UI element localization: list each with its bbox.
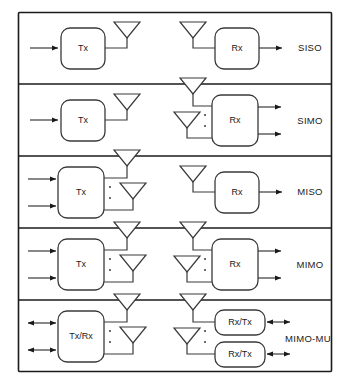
vertical-ellipsis-icon xyxy=(204,114,206,116)
rx-block-label: Rx xyxy=(230,259,241,269)
antenna-icon xyxy=(120,327,146,343)
vertical-ellipsis-icon xyxy=(204,125,206,127)
antenna-icon xyxy=(114,294,140,310)
txrx-block-label: Tx/Rx xyxy=(69,331,93,341)
tx-antenna-feed xyxy=(104,271,133,282)
rxtx-block-label: Rx/Tx xyxy=(228,317,252,327)
vertical-ellipsis-icon xyxy=(109,330,111,332)
tx-block-label: Tx xyxy=(78,43,88,53)
rx-antenna-feed xyxy=(193,37,215,48)
tx-block-label: Tx xyxy=(78,115,88,125)
mode-label-miso: MISO xyxy=(297,186,322,197)
mode-label-mimo: MIMO xyxy=(296,259,323,270)
rx-block-label: Rx xyxy=(232,43,243,53)
figure-canvas: Tx Rx SISO Tx Rx SI xyxy=(0,0,350,384)
tx-block-label: Tx xyxy=(76,259,86,269)
rx-antenna-feed xyxy=(187,127,215,138)
row-simo: Tx Rx SIMO xyxy=(30,78,323,146)
antenna-icon xyxy=(114,94,140,110)
vertical-ellipsis-icon xyxy=(109,197,111,199)
rx-antenna-feed xyxy=(193,309,215,322)
antenna-icon xyxy=(180,78,206,94)
antenna-icon xyxy=(174,328,200,344)
vertical-ellipsis-icon xyxy=(204,258,206,260)
antenna-icon xyxy=(174,112,200,128)
vertical-ellipsis-icon xyxy=(109,269,111,271)
row-siso: Tx Rx SISO xyxy=(30,22,322,69)
tx-antenna-feed xyxy=(104,166,127,178)
tx-antenna-feed xyxy=(105,37,127,48)
mimo-configurations-diagram: Tx Rx SISO Tx Rx SI xyxy=(0,0,350,384)
tx-antenna-feed xyxy=(104,238,127,250)
mode-label-siso: SISO xyxy=(298,42,322,53)
antenna-icon xyxy=(180,222,206,238)
antenna-icon xyxy=(114,22,140,38)
rx-antenna-feed xyxy=(193,181,215,192)
tx-antenna-feed xyxy=(104,343,133,354)
row-miso: Tx Rx MISO xyxy=(28,150,323,218)
antenna-icon xyxy=(114,222,140,238)
antenna-icon xyxy=(180,294,206,310)
rx-antenna-feed xyxy=(187,271,215,282)
tx-antenna-feed xyxy=(105,109,127,120)
rxtx-block-label-2: Rx/Tx xyxy=(228,349,252,359)
antenna-icon xyxy=(180,22,206,38)
vertical-ellipsis-icon xyxy=(109,258,111,260)
vertical-ellipsis-icon xyxy=(109,341,111,343)
mode-label-simo: SIMO xyxy=(297,115,322,126)
rx-block-label: Rx xyxy=(230,115,241,125)
mode-label-mimo-mu: MIMO-MU xyxy=(285,333,331,344)
vertical-ellipsis-icon xyxy=(204,341,206,343)
tx-antenna-feed xyxy=(104,310,127,322)
antenna-icon xyxy=(120,183,146,199)
antenna-icon xyxy=(120,255,146,271)
tx-block-label: Tx xyxy=(76,187,86,197)
rx-antenna-feed xyxy=(187,343,215,354)
row-mimo-mu: Tx/Rx Rx/Tx Rx/Tx MIMO-MU xyxy=(28,294,331,367)
antenna-icon xyxy=(180,166,206,182)
row-mimo: Tx Rx MIMO xyxy=(28,222,324,290)
antenna-icon xyxy=(114,150,140,166)
vertical-ellipsis-icon xyxy=(109,186,111,188)
antenna-icon xyxy=(174,256,200,272)
rx-block-label: Rx xyxy=(232,187,243,197)
vertical-ellipsis-icon xyxy=(204,269,206,271)
vertical-ellipsis-icon xyxy=(204,330,206,332)
tx-antenna-feed xyxy=(104,199,133,210)
